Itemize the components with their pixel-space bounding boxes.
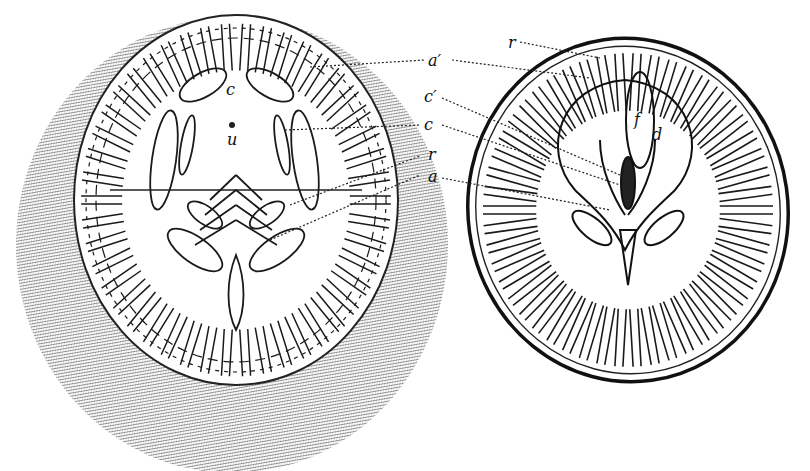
label-d: d xyxy=(652,125,662,144)
label-r-top: r xyxy=(508,33,517,52)
illustration: c u f d r a′ c′ c xyxy=(0,0,810,471)
label-a-prime: a′ xyxy=(428,51,442,70)
label-u: u xyxy=(227,130,237,149)
label-a: a xyxy=(428,167,438,186)
label-c-left: c xyxy=(226,80,235,99)
label-c-prime: c′ xyxy=(424,87,437,106)
label-r: r xyxy=(428,145,437,164)
left-view: c u xyxy=(16,15,448,471)
right-view: f d r xyxy=(446,17,810,402)
label-c: c xyxy=(424,115,433,134)
outer-shell xyxy=(446,17,810,402)
